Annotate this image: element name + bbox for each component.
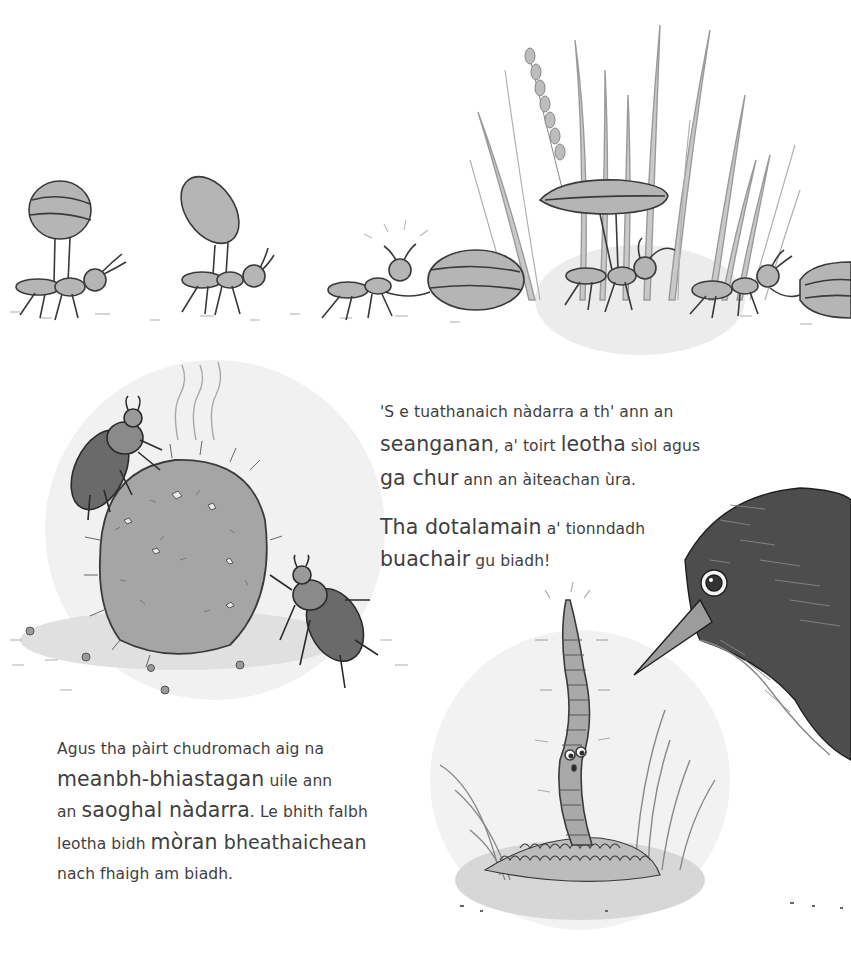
text-run: saoghal nàdarra — [82, 798, 250, 822]
para-1-line-3: ga chur ann an àiteachan ùra. — [380, 462, 740, 496]
para-3-line-4: leotha bidh mòran bheathaichean — [57, 828, 397, 860]
para-3-line-1: Agus tha pàirt chudromach aig na — [57, 734, 397, 765]
ants-illustration — [0, 20, 851, 360]
text-run: an — [57, 803, 82, 821]
para-3-line-5: nach fhaigh am biadh. — [57, 859, 397, 890]
dung-beetles-illustration — [0, 360, 420, 700]
text-run: mòran — [151, 830, 218, 854]
seed-icon — [29, 181, 91, 239]
text-run: , a' toirt — [494, 437, 561, 455]
paragraph-minibeasts: Agus tha pàirt chudromach aig na meanbh-… — [57, 734, 397, 890]
text-run: buachair — [380, 547, 470, 571]
ant-1 — [16, 181, 126, 320]
text-run: a' tionndadh — [542, 520, 645, 538]
text-run: Agus tha pàirt chudromach aig na — [57, 740, 324, 758]
book-page: 'S e tuathanaich nàdarra a th' ann an se… — [0, 0, 851, 978]
paragraph-dung-beetles: Tha dotalamain a' tionndadh buachair gu … — [380, 512, 680, 576]
text-run: uile ann — [264, 772, 332, 790]
ant-3 — [322, 244, 524, 320]
text-run: meanbh-bhiastagan — [57, 767, 264, 791]
text-run: ga chur — [380, 466, 458, 490]
wheat-icon — [525, 48, 565, 200]
text-run: gu biadh! — [470, 552, 550, 570]
text-run: seanganan — [380, 432, 494, 456]
ant-5 — [690, 250, 851, 318]
grass-icon — [478, 25, 770, 300]
paragraph-ants: 'S e tuathanaich nàdarra a th' ann an se… — [380, 396, 740, 496]
text-run: Tha dotalamain — [380, 515, 542, 539]
seed-icon — [428, 250, 524, 310]
para-2-line-1: Tha dotalamain a' tionndadh — [380, 512, 680, 544]
text-run: . Le bhith falbh — [250, 803, 368, 821]
seed-icon — [169, 166, 251, 254]
text-run: leotha — [561, 432, 626, 456]
text-run: 'S e tuathanaich nàdarra a th' ann an — [380, 403, 673, 421]
ant-2 — [169, 166, 274, 315]
text-run: leotha bidh — [57, 835, 151, 853]
text-run: nach fhaigh am biadh. — [57, 865, 233, 883]
para-3-line-2: meanbh-bhiastagan uile ann — [57, 765, 397, 797]
para-1-line-2: seanganan, a' toirt leotha sìol agus — [380, 428, 740, 462]
text-run: sìol agus — [626, 437, 700, 455]
seed-icon — [800, 262, 851, 318]
text-run: bheathaichean — [218, 831, 367, 853]
para-1-line-1: 'S e tuathanaich nàdarra a th' ann an — [380, 396, 740, 428]
text-run: ann an àiteachan ùra. — [458, 471, 636, 489]
para-2-line-2: buachair gu biadh! — [380, 544, 680, 576]
para-3-line-3: an saoghal nàdarra. Le bhith falbh — [57, 796, 397, 828]
